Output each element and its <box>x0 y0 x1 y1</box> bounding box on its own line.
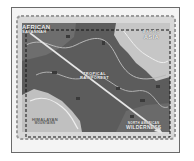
label-north-american-wilderness: NORTH AMERICAN WILDERNESS <box>126 122 161 130</box>
label-exotic-asia: EXOTIC ASIA <box>143 30 160 40</box>
label-african-savannah: AFRICAN SAVANNAH <box>22 24 50 34</box>
label-himalayan-mountains: HIMALAYAN MOUNTAINS <box>32 118 58 125</box>
label-tropical-rainforest: TROPICAL RAINFOREST <box>80 72 109 80</box>
